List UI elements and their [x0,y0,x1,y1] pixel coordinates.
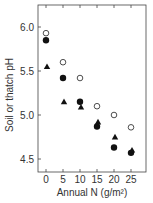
data-points [43,30,135,156]
y-tick-label: 6.0 [20,22,34,33]
plot-frame [38,5,146,172]
filled-triangle-marker [61,99,67,105]
x-tick-label: 20 [108,174,120,185]
x-axis-label: Annual N (g/m²) [57,187,128,198]
x-tick-label: 15 [91,174,103,185]
y-tick-label: 5.5 [20,66,34,77]
filled-triangle-marker [112,134,118,140]
open-circle-marker [128,125,134,131]
x-axis-ticks: 0510152025 [43,5,137,185]
open-circle-marker [111,112,117,118]
y-tick-label: 5.0 [20,110,34,121]
y-axis-label: Soil or thatch pH [4,58,15,132]
y-tick-label: 4.5 [20,154,34,165]
open-circle-marker [60,59,66,65]
open-circle-marker [94,103,100,109]
x-tick-label: 25 [125,174,137,185]
filled-triangle-marker [129,147,135,153]
x-tick-label: 10 [74,174,86,185]
filled-circle-marker [60,75,66,81]
filled-triangle-marker [95,119,101,125]
filled-triangle-marker [44,63,50,69]
filled-circle-marker [111,144,117,150]
x-tick-label: 0 [43,174,49,185]
filled-circle-marker [77,99,83,105]
filled-circle-marker [43,37,49,43]
x-tick-label: 5 [60,174,66,185]
open-circle-marker [43,30,49,36]
open-circle-marker [77,75,83,81]
scatter-chart: 4.55.05.56.0 0510152025 Annual N (g/m²) … [0,0,153,203]
